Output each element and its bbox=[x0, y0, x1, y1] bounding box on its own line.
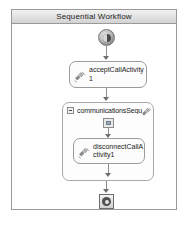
arrow-accept-to-sequence bbox=[103, 97, 109, 101]
arrow-start-to-accept bbox=[103, 56, 109, 60]
call-activity-icon bbox=[78, 145, 90, 157]
call-activity-icon bbox=[74, 69, 86, 81]
arrow-sequence-to-end bbox=[103, 189, 109, 193]
workflow-designer-canvas[interactable]: acceptCallActivity1 communicationsSequ bbox=[11, 9, 177, 210]
sequence-activity-icon bbox=[141, 104, 152, 115]
page-title: Sequential Workflow bbox=[56, 12, 132, 21]
collapse-toggle-icon[interactable] bbox=[67, 107, 74, 114]
stop-square-icon[interactable] bbox=[99, 194, 114, 209]
activity-label: acceptCallActivity1 bbox=[89, 66, 146, 83]
activity-accept-call[interactable]: acceptCallActivity1 bbox=[69, 61, 147, 88]
activity-label: disconnectCallActivity1 bbox=[93, 143, 144, 160]
composite-activity-communications-sequence[interactable]: communicationsSequ bbox=[62, 102, 154, 181]
designer-title-bar: Sequential Workflow bbox=[11, 9, 177, 24]
start-circle-icon[interactable] bbox=[98, 29, 115, 46]
end-node-inner bbox=[102, 197, 111, 206]
arrow-disconnect-to-sequence-end bbox=[105, 173, 111, 177]
sequence-connector-icon[interactable] bbox=[103, 118, 114, 128]
activity-disconnect-call[interactable]: disconnectCallActivity1 bbox=[73, 138, 145, 164]
composite-header[interactable]: communicationsSequ bbox=[63, 105, 153, 116]
start-node-inner bbox=[103, 34, 111, 42]
workflow-flow-container: acceptCallActivity1 communicationsSequ bbox=[12, 24, 178, 210]
